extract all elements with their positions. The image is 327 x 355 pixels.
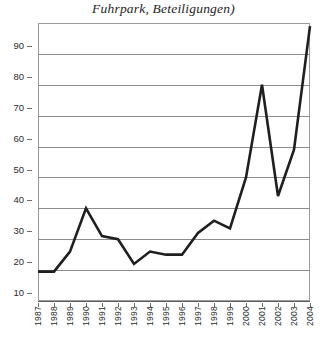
x-tick-label: 1993 — [130, 306, 139, 326]
y-tick-label: 10 — [13, 288, 24, 298]
y-tick-label: 40 — [13, 195, 24, 205]
chart-title: Fuhrpark, Beteiligungen) — [0, 1, 327, 17]
x-tick-label: 2004 — [306, 306, 315, 326]
x-tick-label: 2001 — [258, 306, 267, 326]
series-line-chart — [38, 23, 310, 301]
chart-figure: Fuhrpark, Beteiligungen) 102030405060708… — [0, 0, 327, 355]
plot-area — [38, 23, 310, 301]
x-tick-label: 1994 — [146, 306, 155, 326]
y-tick-mark — [27, 139, 32, 140]
x-axis: 1987198819891990199119921993199419951996… — [38, 303, 310, 353]
x-tick-label: 1991 — [98, 306, 107, 326]
x-tick-label: 1999 — [226, 306, 235, 326]
y-tick-mark — [27, 293, 32, 294]
x-tick-label: 1995 — [162, 306, 171, 326]
x-tick-label: 1992 — [114, 306, 123, 326]
y-tick-label: 30 — [13, 226, 24, 236]
y-tick-mark — [27, 231, 32, 232]
y-axis: 102030405060708090 — [0, 23, 32, 301]
y-tick-label: 90 — [13, 41, 24, 51]
x-tick-label: 2003 — [290, 306, 299, 326]
x-tick-label: 1988 — [50, 306, 59, 326]
y-tick-label: 20 — [13, 257, 24, 267]
x-tick-label: 1990 — [82, 306, 91, 326]
y-tick-label: 70 — [13, 103, 24, 113]
y-tick-label: 60 — [13, 134, 24, 144]
x-tick-label: 1996 — [178, 306, 187, 326]
y-tick-label: 80 — [13, 72, 24, 82]
y-tick-mark — [27, 108, 32, 109]
y-tick-mark — [27, 200, 32, 201]
series-polyline — [38, 26, 310, 272]
x-tick-label: 2000 — [242, 306, 251, 326]
x-axis-line — [38, 301, 310, 302]
x-tick-label: 2002 — [274, 306, 283, 326]
x-tick-label: 1989 — [66, 306, 75, 326]
y-tick-label: 50 — [13, 165, 24, 175]
y-tick-mark — [27, 77, 32, 78]
y-tick-mark — [27, 170, 32, 171]
x-tick-label: 1987 — [34, 306, 43, 326]
x-tick-label: 1997 — [194, 306, 203, 326]
y-tick-mark — [27, 262, 32, 263]
y-tick-mark — [27, 46, 32, 47]
x-tick-label: 1998 — [210, 306, 219, 326]
